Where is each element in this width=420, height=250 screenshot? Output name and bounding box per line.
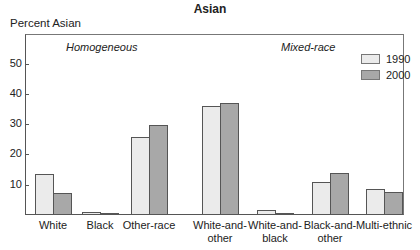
bar-1990: [82, 212, 101, 215]
bar-2000: [384, 192, 403, 215]
x-category-label: Other-race: [114, 219, 184, 232]
chart-title: Asian: [0, 2, 420, 16]
y-tick: [25, 94, 29, 95]
y-tick-label: 20: [2, 147, 22, 159]
bar-2000: [149, 125, 168, 215]
bar-2000: [100, 213, 119, 215]
chart-root: Asian Percent Asian 1020304050 Homogeneo…: [0, 0, 420, 250]
y-tick-label: 50: [2, 57, 22, 69]
bar-2000: [275, 213, 294, 215]
y-tick: [25, 124, 29, 125]
bar-1990: [366, 189, 385, 215]
bar-1990: [312, 182, 331, 215]
legend-swatch-1990: [361, 54, 380, 64]
bar-2000: [53, 193, 72, 215]
bar-1990: [131, 137, 150, 215]
y-tick: [25, 185, 29, 186]
legend-label: 1990: [386, 53, 410, 65]
y-tick-label: 10: [2, 178, 22, 190]
bar-1990: [35, 174, 54, 215]
annotation-homogeneous: Homogeneous: [66, 41, 138, 53]
bar-1990: [202, 106, 221, 215]
legend-item-1990: 1990: [361, 53, 410, 65]
bar-2000: [330, 173, 349, 215]
bar-1990: [257, 210, 276, 215]
x-category-label: Multi-ethnic: [349, 219, 419, 232]
legend-label: 2000: [386, 69, 410, 81]
y-axis-label: Percent Asian: [10, 17, 81, 29]
bar-2000: [220, 103, 239, 215]
legend-item-2000: 2000: [361, 69, 410, 81]
annotation-mixed-race: Mixed-race: [281, 41, 335, 53]
y-tick: [25, 64, 29, 65]
y-tick-label: 40: [2, 87, 22, 99]
y-tick: [25, 154, 29, 155]
y-tick-label: 30: [2, 117, 22, 129]
legend-swatch-2000: [361, 70, 380, 80]
